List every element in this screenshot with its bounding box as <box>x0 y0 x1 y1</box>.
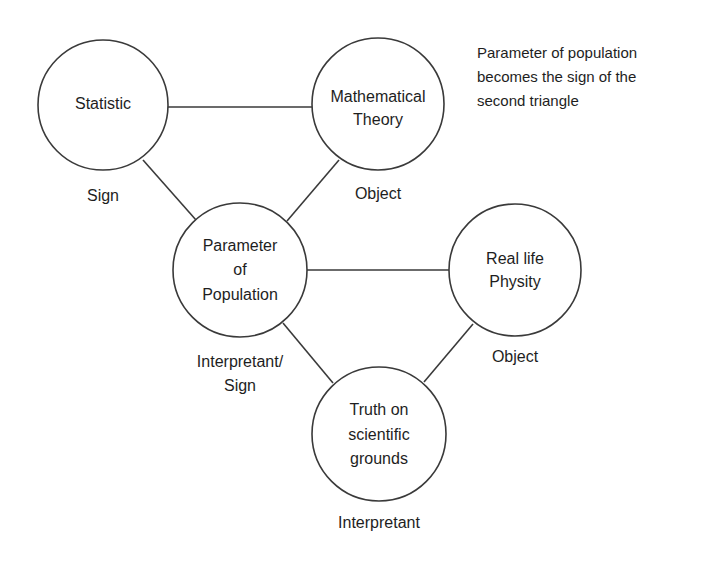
node-label-line: Population <box>202 286 278 303</box>
role-label: Interpretant <box>338 514 420 531</box>
role-label: Sign <box>224 377 256 394</box>
role-label: Object <box>492 348 539 365</box>
node-statistic: Statistic Sign <box>38 40 168 204</box>
node-label-line: Parameter <box>203 237 278 254</box>
role-label: Sign <box>87 187 119 204</box>
node-label-line: Real life <box>486 250 544 267</box>
node-label-line: scientific <box>348 426 409 443</box>
node-label-line: grounds <box>350 450 408 467</box>
role-label: Object <box>355 185 402 202</box>
note-line: Parameter of population <box>477 44 637 61</box>
edge-mathematical-theory-parameter <box>287 160 339 221</box>
role-label: Interpretant/ <box>197 353 284 370</box>
semiotic-triangles-diagram: Statistic Sign Mathematical Theory Objec… <box>0 0 710 561</box>
node-label-line: Mathematical <box>330 88 425 105</box>
node-real-life-physity: Real life Physity Object <box>449 204 581 365</box>
node-label-line: Physity <box>489 273 541 290</box>
node-label-line: Truth on <box>350 401 409 418</box>
node-label-line: of <box>233 261 247 278</box>
node-parameter-of-population: Parameter of Population Interpretant/ Si… <box>173 203 307 394</box>
node-label-line: Statistic <box>75 95 131 112</box>
annotation-note: Parameter of population becomes the sign… <box>477 44 637 109</box>
edge-real-life-truth <box>424 324 473 382</box>
note-line: becomes the sign of the <box>477 68 636 85</box>
note-line: second triangle <box>477 92 579 109</box>
node-mathematical-theory: Mathematical Theory Object <box>312 38 444 202</box>
node-circle <box>449 204 581 336</box>
edge-parameter-truth <box>283 323 333 383</box>
node-truth-on-scientific-grounds: Truth on scientific grounds Interpretant <box>312 367 446 531</box>
edge-statistic-parameter <box>143 160 196 220</box>
node-label-line: Theory <box>353 111 403 128</box>
